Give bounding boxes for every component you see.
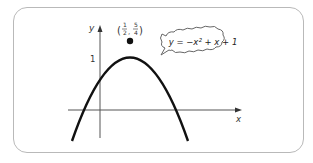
svg-text:): ) (139, 25, 143, 36)
x-axis-label: x (235, 114, 242, 124)
svg-text:4: 4 (134, 29, 138, 36)
vertex-point (127, 38, 133, 44)
equation-label: y = −x² + x + 1 (168, 37, 238, 47)
vertex-label: ( 1 2 , 5 4 ) (117, 21, 143, 36)
parabola-curve (72, 58, 188, 142)
svg-text:2: 2 (123, 29, 127, 36)
svg-text:,: , (128, 28, 130, 36)
y-tick-1: 1 (90, 54, 95, 64)
x-axis-arrow-icon (235, 108, 242, 113)
parabola-graph: y x 1 ( 1 2 , 5 4 ) (0, 0, 313, 163)
svg-text:1: 1 (123, 21, 127, 28)
y-axis-arrow-icon (98, 25, 103, 32)
y-axis-label: y (88, 23, 95, 33)
svg-text:(: ( (117, 25, 121, 36)
svg-text:5: 5 (134, 21, 138, 28)
